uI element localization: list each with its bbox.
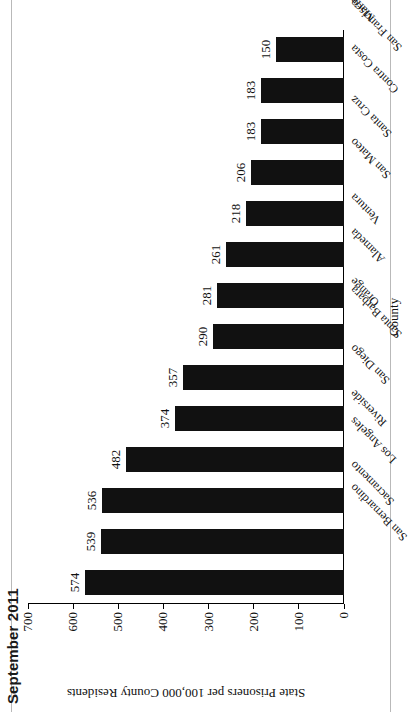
chart-title: September 2011: [4, 588, 21, 704]
bar-value-label: 218: [229, 204, 242, 224]
bar-value-label: 183: [244, 81, 257, 101]
bar-series: 5745395364823743572902812612182061831831…: [28, 30, 344, 603]
bar: [85, 570, 344, 595]
y-axis-tick-label: 700: [21, 612, 34, 648]
y-axis-tick: [208, 604, 209, 609]
bar-slot: [217, 283, 344, 308]
category-label: Ventura: [347, 191, 384, 228]
bar-slot: [213, 324, 344, 349]
y-axis-tick-label: 0: [337, 612, 350, 648]
bar: [175, 406, 344, 431]
bar-value-label: 183: [244, 122, 257, 142]
bar-value-label: 290: [196, 327, 209, 347]
bar-slot: [175, 406, 344, 431]
bar: [261, 119, 344, 144]
y-axis-tick-label: 100: [292, 612, 305, 648]
bar-value-label: 536: [85, 491, 98, 511]
plot-area: 5745395364823743572902812612182061831831…: [28, 30, 344, 604]
bar-value-label: 206: [234, 163, 247, 183]
y-axis-title-text: State Prisoners per 100,000 County Resid…: [67, 685, 305, 701]
y-axis-tick: [118, 604, 119, 609]
bar-value-label: 539: [84, 532, 97, 552]
bar-slot: [101, 529, 344, 554]
y-axis-tick: [344, 604, 345, 609]
y-axis-tick-label: 400: [156, 612, 169, 648]
bar-slot: [261, 78, 344, 103]
bar: [226, 242, 344, 267]
bar: [126, 447, 344, 472]
bar-slot: [183, 365, 344, 390]
bar: [246, 201, 344, 226]
bar: [213, 324, 344, 349]
bar-value-label: 482: [109, 450, 122, 470]
bar-slot: [246, 201, 344, 226]
bar-slot: [226, 242, 344, 267]
bar-slot: [276, 37, 344, 62]
bar-value-label: 281: [200, 286, 213, 306]
bar-slot: [102, 488, 344, 513]
y-axis-tick-label: 600: [66, 612, 79, 648]
bar-value-label: 574: [68, 573, 81, 593]
y-axis-tick: [28, 604, 29, 609]
bar: [276, 37, 344, 62]
bar-slot: [251, 160, 344, 185]
bar-slot: [85, 570, 344, 595]
bar-value-label: 261: [209, 245, 222, 265]
y-axis-title: State Prisoners per 100,000 County Resid…: [28, 684, 344, 702]
bar-value-label: 374: [158, 409, 171, 429]
y-axis-tick: [73, 604, 74, 609]
bar: [101, 529, 344, 554]
rotated-figure-stage: September 2011 State Prisoners per 100,0…: [0, 0, 412, 712]
y-axis-tick-label: 300: [202, 612, 215, 648]
bar-value-label: 357: [166, 368, 179, 388]
category-label: Alameda: [347, 226, 388, 267]
x-axis-title: County: [386, 30, 402, 604]
bar: [183, 365, 344, 390]
y-axis-tick: [163, 604, 164, 609]
y-axis-tick-label: 200: [247, 612, 260, 648]
bar: [102, 488, 344, 513]
bar: [217, 283, 344, 308]
bar: [251, 160, 344, 185]
bar-value-label: 150: [259, 40, 272, 60]
y-axis-tick-label: 500: [111, 612, 124, 648]
bar-slot: [261, 119, 344, 144]
value-axis-line: [28, 603, 344, 604]
y-axis-tick: [253, 604, 254, 609]
bar-chart-figure: September 2011 State Prisoners per 100,0…: [0, 0, 412, 712]
bar-slot: [126, 447, 344, 472]
y-axis-tick: [298, 604, 299, 609]
bar: [261, 78, 344, 103]
